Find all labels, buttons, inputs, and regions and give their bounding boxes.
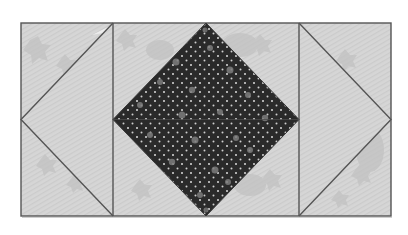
quilt-block-image (0, 0, 408, 235)
